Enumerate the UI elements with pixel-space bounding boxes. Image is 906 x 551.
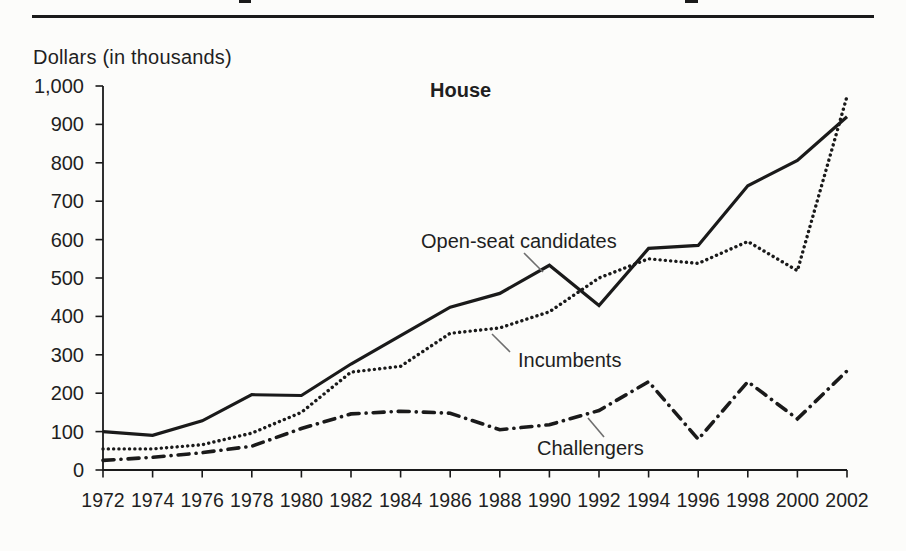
y-tick-label: 1,000 bbox=[24, 75, 84, 97]
label-leader-line bbox=[588, 418, 604, 437]
y-tick-label: 700 bbox=[24, 190, 84, 212]
series-label-open-seat-candidates: Open-seat candidates bbox=[421, 230, 617, 253]
plot-area bbox=[0, 0, 906, 551]
series-line-open-seat-candidates bbox=[103, 117, 847, 436]
axes bbox=[103, 86, 847, 470]
label-leader-line bbox=[524, 253, 543, 272]
y-tick-label: 200 bbox=[24, 382, 84, 404]
y-tick-label: 300 bbox=[24, 344, 84, 366]
series-label-challengers: Challengers bbox=[537, 437, 644, 460]
y-tick-label: 100 bbox=[24, 421, 84, 443]
chart-page: Dollars (in thousands) House 01002003004… bbox=[0, 0, 906, 551]
y-tick-label: 400 bbox=[24, 305, 84, 327]
y-tick-label: 800 bbox=[24, 152, 84, 174]
y-tick-label: 500 bbox=[24, 267, 84, 289]
series-label-incumbents: Incumbents bbox=[518, 349, 621, 372]
y-tick-label: 0 bbox=[24, 459, 84, 481]
label-leader-line bbox=[492, 334, 510, 352]
y-tick-label: 600 bbox=[24, 229, 84, 251]
x-tick-label: 2002 bbox=[817, 489, 877, 511]
y-tick-label: 900 bbox=[24, 113, 84, 135]
